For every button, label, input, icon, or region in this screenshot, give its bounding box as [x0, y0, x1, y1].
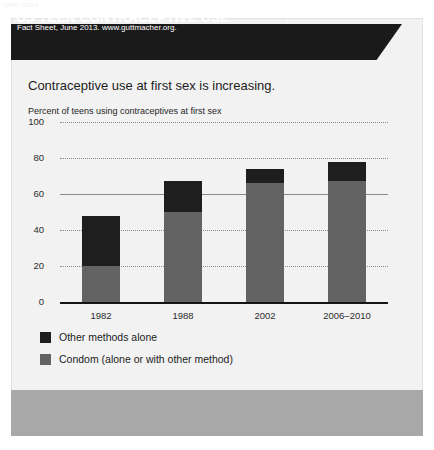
bar-segment-other-1988	[164, 181, 202, 212]
legend-item-other-methods: Other methods alone	[40, 331, 233, 343]
footer-band	[11, 390, 423, 436]
y-tick-20: 20	[4, 260, 44, 271]
legend-swatch-other-methods	[40, 332, 51, 343]
y-tick-100: 100	[4, 116, 44, 127]
bar-segment-condom-2002	[246, 183, 284, 302]
chart-subtitle: Contraceptive use at first sex is increa…	[28, 78, 275, 93]
bar-1988	[164, 122, 202, 302]
bar-segment-other-2006–2010	[328, 162, 366, 182]
bar-1982	[82, 122, 120, 302]
bar-2006–2010	[328, 122, 366, 302]
legend: Other methods alone Condom (alone or wit…	[40, 331, 233, 375]
x-tick-1982: 1982	[56, 310, 146, 321]
infographic-page: Unit Care US TEEN CONTRACEPTIVE USE Cont…	[0, 0, 434, 450]
x-tick-2002: 2002	[220, 310, 310, 321]
bar-2002	[246, 122, 284, 302]
y-tick-60: 60	[4, 188, 44, 199]
x-tick-2006–2010: 2006–2010	[302, 310, 392, 321]
legend-item-condom: Condom (alone or with other method)	[40, 353, 233, 365]
x-tick-1988: 1988	[138, 310, 228, 321]
bar-segment-other-2002	[246, 169, 284, 183]
y-tick-40: 40	[4, 224, 44, 235]
legend-label-other-methods: Other methods alone	[59, 331, 157, 343]
legend-swatch-condom	[40, 354, 51, 365]
bar-segment-condom-1982	[82, 266, 120, 302]
legend-label-condom: Condom (alone or with other method)	[59, 353, 233, 365]
bar-segment-other-1982	[82, 216, 120, 266]
y-tick-0: 0	[4, 296, 44, 307]
y-axis-label: Percent of teens using contraceptives at…	[28, 106, 222, 116]
bar-segment-condom-2006–2010	[328, 181, 366, 302]
x-axis-line	[60, 302, 388, 304]
y-tick-80: 80	[4, 152, 44, 163]
bar-segment-condom-1988	[164, 212, 202, 302]
watermark-text: Unit Care	[4, 1, 39, 8]
source-citation: Taken from: Guttmacher Institute, "Facts…	[17, 10, 397, 35]
plot-area: 020406080100 1982198820022006–2010	[60, 122, 388, 302]
